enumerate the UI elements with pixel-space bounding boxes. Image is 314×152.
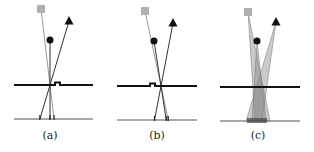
panel-c-label: (c) bbox=[251, 129, 266, 142]
triangle-source-icon bbox=[169, 18, 178, 27]
panel-b-label: (b) bbox=[149, 129, 165, 142]
circle-source-icon bbox=[47, 37, 54, 44]
circle-source-icon bbox=[151, 38, 158, 45]
aperture-barrier-b bbox=[117, 84, 197, 87]
aperture-barrier-a bbox=[14, 83, 93, 86]
ray-circle-b bbox=[154, 41, 166, 120]
square-source-icon bbox=[37, 5, 45, 13]
panel-a-label: (a) bbox=[42, 129, 57, 142]
ray-square-a bbox=[41, 9, 54, 119]
sensor-blur-spot bbox=[247, 118, 267, 123]
circle-source-icon bbox=[254, 38, 261, 45]
triangle-source-icon bbox=[65, 16, 74, 25]
square-source-icon bbox=[141, 7, 149, 15]
triangle-source-icon bbox=[272, 17, 281, 26]
square-source-icon bbox=[244, 8, 252, 16]
